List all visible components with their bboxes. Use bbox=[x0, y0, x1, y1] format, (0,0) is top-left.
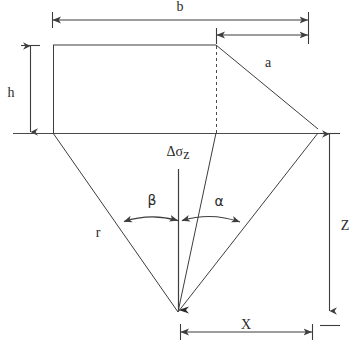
angle-arc-beta bbox=[124, 217, 178, 222]
dimension-Z-label: Z bbox=[341, 218, 350, 233]
embankment-outline bbox=[53, 45, 318, 133]
ray-right bbox=[178, 133, 318, 312]
ray-left-r bbox=[53, 133, 178, 312]
radius-r-label: r bbox=[96, 225, 101, 240]
angle-alpha-label: α bbox=[214, 193, 223, 209]
dimension-Z: Z bbox=[320, 134, 349, 326]
delta-sigma-z-label: Δσz bbox=[167, 144, 190, 162]
dimension-h: h bbox=[8, 46, 41, 133]
dimension-a: a bbox=[217, 28, 309, 70]
angle-arc-alpha bbox=[182, 217, 240, 222]
dimension-h-label: h bbox=[8, 85, 15, 100]
dimension-X-label: X bbox=[241, 317, 251, 332]
delta-sigma-text: Δσ bbox=[167, 144, 184, 159]
embankment-crest-and-slope bbox=[53, 45, 318, 129]
angle-beta-label: β bbox=[148, 192, 157, 208]
dimension-X: X bbox=[181, 317, 313, 340]
angle-arc-group: β α r bbox=[96, 192, 240, 240]
stress-increment-arrow-group: Δσz bbox=[167, 144, 190, 310]
delta-sigma-subscript: z bbox=[183, 147, 189, 162]
diagram-container: b a h bbox=[0, 0, 355, 346]
dimension-a-label: a bbox=[265, 55, 272, 70]
dimension-b-label: b bbox=[177, 0, 184, 14]
stress-distribution-diagram: b a h bbox=[0, 0, 355, 346]
dimension-b: b bbox=[53, 0, 309, 28]
